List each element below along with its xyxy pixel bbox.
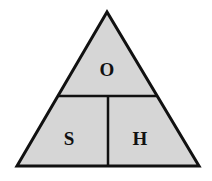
bottom-right-label: H <box>133 128 148 149</box>
formula-triangle: O S H <box>0 0 212 181</box>
bottom-left-label: S <box>64 128 75 149</box>
top-label: O <box>100 59 115 80</box>
